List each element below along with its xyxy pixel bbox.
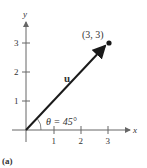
x-axis-label: x bbox=[132, 125, 137, 135]
angle-arc bbox=[38, 119, 42, 130]
diagram-canvas: x y 1 2 3 1 2 3 (3, 3) u θ = 45° (a) bbox=[0, 0, 147, 168]
y-tick-1: 1 bbox=[14, 96, 19, 106]
angle-label: θ = 45° bbox=[46, 116, 77, 127]
x-tick-1: 1 bbox=[52, 136, 57, 146]
tip-point bbox=[106, 40, 111, 45]
vector-diagram: x y 1 2 3 1 2 3 (3, 3) u θ = 45° (a) bbox=[0, 0, 147, 168]
panel-label: (a) bbox=[2, 156, 13, 166]
y-axis-label: y bbox=[22, 9, 27, 19]
vector-label: u bbox=[64, 72, 70, 84]
y-tick-3: 3 bbox=[14, 38, 19, 48]
tip-point-label: (3, 3) bbox=[82, 29, 104, 41]
x-ticks: 1 2 3 bbox=[52, 126, 111, 146]
x-tick-3: 3 bbox=[106, 136, 111, 146]
y-tick-2: 2 bbox=[14, 67, 19, 77]
x-tick-2: 2 bbox=[79, 136, 84, 146]
y-ticks: 1 2 3 bbox=[14, 38, 30, 106]
